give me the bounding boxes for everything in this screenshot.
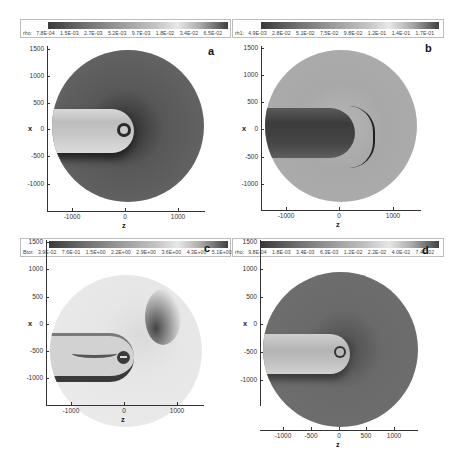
x-tick-label: 0 — [324, 432, 354, 439]
y-tick-label: 1000 — [231, 265, 257, 272]
x-tick-mark — [177, 402, 178, 405]
y-tick-label: 1500 — [18, 45, 44, 52]
y-tick-mark — [260, 242, 263, 243]
y-tick-label: -1000 — [17, 374, 43, 381]
x-tick-mark — [72, 208, 73, 211]
colorbar-gradient — [261, 22, 439, 29]
x-tick-mark — [311, 427, 312, 430]
x-axis — [260, 430, 418, 431]
colorbar-tick: 1.4E-01 — [392, 30, 411, 36]
x-axis — [47, 211, 205, 212]
x-tick-label: -1000 — [268, 432, 298, 439]
colorbar-tick: 7.8E-04 — [36, 30, 55, 36]
x-tick-label: 1000 — [162, 407, 192, 414]
y-tick-label: 500 — [18, 99, 44, 106]
colorbar-variable: Btot: — [23, 249, 34, 255]
y-tick-mark — [260, 380, 263, 381]
colorbar-gradient — [48, 22, 228, 29]
density-field-b — [265, 50, 417, 202]
object-core — [336, 348, 344, 356]
colorbar-tick: 7.6E-01 — [62, 249, 81, 255]
x-tick-label: -1000 — [271, 212, 301, 219]
y-tick-label: -500 — [232, 153, 258, 160]
colorbar-tick: 1.7E-01 — [416, 30, 435, 36]
y-tick-mark — [261, 75, 264, 76]
field-compression — [145, 289, 181, 345]
colorbar-tick: 1.5E-03 — [60, 30, 79, 36]
colorbar-a: rho: 7.8E-04 1.5E-03 2.7E-03 5.2E-03 9.7… — [20, 19, 231, 38]
x-tick-mark — [366, 427, 367, 430]
colorbar-tick: 3.4E-02 — [180, 30, 199, 36]
colorbar-tick: 3.4E-03 — [296, 249, 315, 255]
y-tick-label: 1500 — [17, 238, 43, 245]
panel-d: rho: 9.8E-04 1.8E-03 3.4E-03 6.3E-03 1.2… — [230, 230, 460, 460]
colorbar-labels: rh1: 4.9E-03 2.8E-02 5.1E-02 7.5E-02 9.8… — [235, 30, 440, 36]
x-axis-title: z — [121, 415, 125, 424]
y-tick-mark — [47, 184, 50, 185]
colorbar-d: rho: 9.8E-04 1.8E-03 3.4E-03 6.3E-03 1.2… — [232, 238, 444, 257]
colorbar-variable: rho: — [23, 30, 32, 36]
colorbar-tick: 4.0E-02 — [392, 249, 411, 255]
y-tick-label: -500 — [17, 347, 43, 354]
colorbar-tick: 1.8E-03 — [272, 249, 291, 255]
y-tick-label: -1000 — [231, 376, 257, 383]
y-tick-mark — [46, 324, 49, 325]
y-tick-mark — [47, 103, 50, 104]
colorbar-variable: rho: — [235, 249, 244, 255]
colorbar-b: rh1: 4.9E-03 2.8E-02 5.1E-02 7.5E-02 9.8… — [232, 19, 444, 38]
y-tick-label: -500 — [18, 152, 44, 159]
y-tick-label: 1000 — [232, 71, 258, 78]
y-tick-label: -500 — [231, 348, 257, 355]
y-axis-title: x — [28, 124, 32, 133]
y-tick-mark — [261, 184, 264, 185]
x-tick-label: 0 — [109, 407, 139, 414]
x-tick-mark — [339, 207, 340, 210]
y-tick-mark — [47, 76, 50, 77]
y-tick-mark — [261, 157, 264, 158]
colorbar-tick: 2.2E-02 — [368, 249, 387, 255]
colorbar-labels: rho: 9.8E-04 1.8E-03 3.4E-03 6.3E-03 1.2… — [235, 249, 440, 255]
wake-filament — [72, 349, 117, 358]
x-axis — [46, 405, 204, 406]
colorbar-tick: 5.1E+00 — [212, 249, 232, 255]
x-tick-mark — [125, 208, 126, 211]
colorbar-tick: 2.2E+00 — [111, 249, 131, 255]
colorbar-tick: 6.5E-02 — [204, 30, 223, 36]
x-tick-label: 1000 — [379, 432, 409, 439]
x-tick-label: -1000 — [56, 407, 86, 414]
object-core — [120, 126, 128, 134]
colorbar-labels: rho: 7.8E-04 1.5E-03 2.7E-03 5.2E-03 9.7… — [23, 30, 228, 36]
y-tick-label: 1500 — [232, 44, 258, 51]
object-shell — [117, 351, 130, 364]
y-tick-mark — [260, 269, 263, 270]
density-field-a — [52, 50, 204, 202]
colorbar-tick: 9.8E-02 — [344, 30, 363, 36]
x-tick-mark — [394, 427, 395, 430]
panel-label: b — [425, 42, 432, 54]
x-tick-label: 500 — [351, 432, 381, 439]
colorbar-tick: 2.8E-02 — [272, 30, 291, 36]
colorbar-tick: 9.8E-04 — [248, 249, 267, 255]
y-tick-label: 500 — [232, 98, 258, 105]
x-axis — [261, 210, 421, 211]
colorbar-tick: 1.2E-01 — [368, 30, 387, 36]
colorbar-tick: 1.8E-02 — [156, 30, 175, 36]
bow-shock — [349, 106, 375, 168]
y-tick-mark — [260, 324, 263, 325]
x-tick-mark — [393, 207, 394, 210]
x-tick-mark — [178, 208, 179, 211]
colorbar-tick: 4.9E-03 — [248, 30, 267, 36]
colorbar-tick: 7.5E-02 — [320, 30, 339, 36]
y-tick-mark — [47, 49, 50, 50]
panel-label: d — [422, 244, 429, 256]
x-tick-label: 0 — [110, 213, 140, 220]
y-tick-label: -1000 — [232, 180, 258, 187]
colorbar-tick: 9.7E-03 — [132, 30, 151, 36]
x-tick-mark — [283, 427, 284, 430]
y-tick-label: 500 — [17, 293, 43, 300]
y-tick-mark — [47, 156, 50, 157]
y-axis-title: x — [28, 319, 32, 328]
y-tick-mark — [261, 129, 264, 130]
y-axis-title: x — [243, 319, 247, 328]
colorbar-tick: 1.2E-02 — [344, 249, 363, 255]
